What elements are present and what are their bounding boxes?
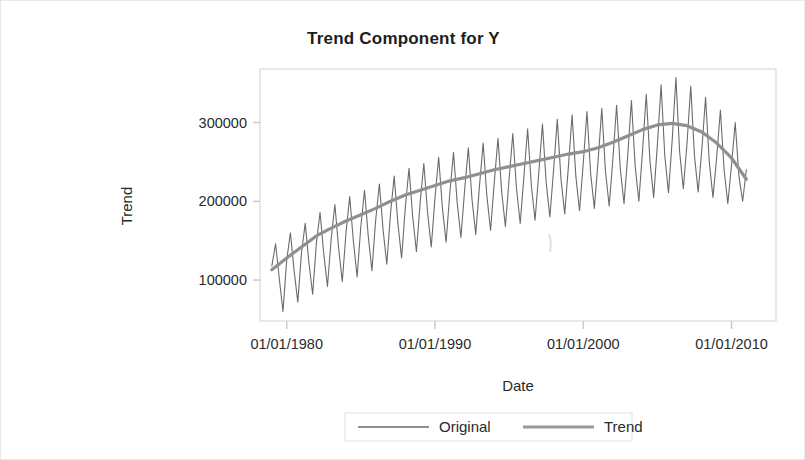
x-tick-label: 01/01/2010: [695, 336, 768, 352]
chart-figure: Trend Component for Y 100000200000300000…: [0, 0, 805, 460]
plot-area-frame: [260, 69, 776, 321]
x-axis-ticks: 01/01/198001/01/199001/01/200001/01/2010: [250, 321, 767, 352]
x-tick-label: 01/01/1990: [399, 336, 472, 352]
x-axis-title: Date: [502, 377, 534, 394]
chart-legend: Original Trend: [345, 413, 643, 441]
x-tick-label: 01/01/2000: [547, 336, 620, 352]
y-tick-label: 300000: [199, 115, 247, 131]
legend-label-trend: Trend: [604, 418, 643, 435]
x-tick-label: 01/01/1980: [250, 336, 323, 352]
y-axis-ticks: 100000200000300000: [199, 115, 260, 288]
y-tick-label: 100000: [199, 272, 247, 288]
y-tick-label: 200000: [199, 193, 247, 209]
trend-component-line-chart: 100000200000300000 01/01/198001/01/19900…: [1, 1, 805, 460]
y-axis-title: Trend: [118, 187, 135, 226]
legend-label-original: Original: [439, 418, 491, 435]
